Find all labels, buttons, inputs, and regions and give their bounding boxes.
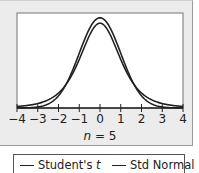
x-tick-label: 2 — [138, 112, 146, 126]
x-tick-label: 4 — [179, 112, 187, 126]
legend: Student's t Std Normal — [13, 154, 185, 173]
x-tick-label: 0 — [96, 112, 104, 126]
x-tick-label: −2 — [50, 112, 68, 126]
legend-item-std-normal: Std Normal — [112, 158, 194, 172]
x-tick-label: 3 — [158, 112, 166, 126]
legend-item-student-t: Student's t — [20, 158, 101, 172]
legend-line-icon — [112, 165, 126, 166]
legend-line-icon — [20, 165, 34, 166]
chart: −4−3−2−101234 n = 5 — [0, 0, 199, 150]
x-axis-label: n = 5 — [84, 129, 117, 143]
x-tick-label: 1 — [117, 112, 125, 126]
x-tick-label: −4 — [8, 112, 26, 126]
x-tick-label: −1 — [70, 112, 88, 126]
x-tick-label: −3 — [29, 112, 47, 126]
plot-area — [17, 13, 183, 108]
